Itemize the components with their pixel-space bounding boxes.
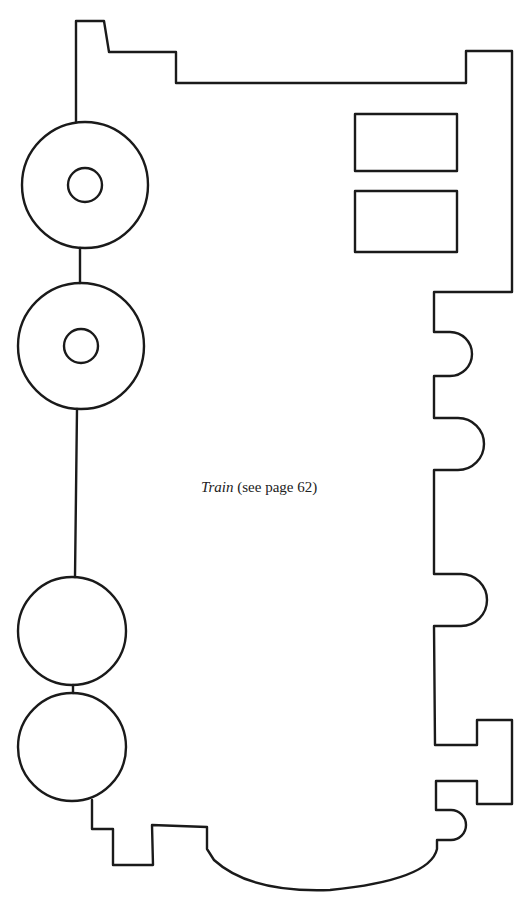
train-body-outline	[76, 21, 512, 890]
wheel-1-hub	[68, 168, 102, 202]
figure-caption: Train (see page 62)	[201, 479, 317, 496]
wheel-2	[18, 283, 144, 409]
caption-title: Train	[201, 479, 234, 495]
window-2	[355, 191, 457, 252]
wheel-1	[22, 122, 148, 248]
wheel-2-hub	[64, 329, 98, 363]
connector-line-2	[75, 409, 77, 577]
window-1	[355, 114, 457, 171]
caption-reference: (see page 62)	[237, 479, 317, 495]
train-outline-diagram	[0, 0, 527, 910]
wheel-4	[18, 693, 126, 801]
wheel-3	[18, 577, 126, 685]
